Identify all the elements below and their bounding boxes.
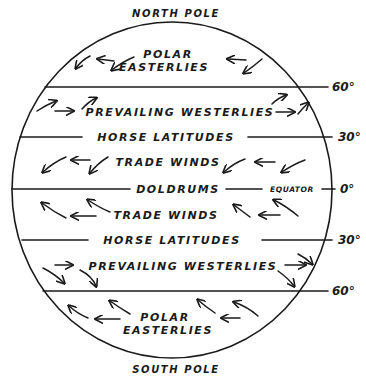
north-trade-winds-label: TRADE WINDS — [115, 156, 220, 169]
north-westerlies-label: PREVAILING WESTERLIES — [86, 106, 275, 119]
wind-belts-diagram: NORTH POLE SOUTH POLE 60° 30° 0° 30° 60°… — [0, 0, 366, 378]
north-polar-label-1: POLAR — [143, 48, 192, 61]
south-pole-label: SOUTH POLE — [132, 364, 220, 375]
north-polar-label-2: EASTERLIES — [119, 61, 209, 74]
south-trade-winds-label: TRADE WINDS — [113, 209, 218, 222]
degree-label-60s: 60° — [332, 284, 355, 298]
equator-label: EQUATOR — [270, 185, 314, 194]
degree-label-30n: 30° — [338, 130, 361, 144]
doldrums-label: DOLDRUMS — [136, 183, 220, 196]
degree-label-0: 0° — [340, 182, 354, 196]
south-westerlies-label: PREVAILING WESTERLIES — [89, 260, 278, 273]
south-polar-label-2: EASTERLIES — [123, 324, 213, 337]
south-horse-latitudes-label: HORSE LATITUDES — [103, 234, 240, 247]
north-pole-label: NORTH POLE — [132, 8, 220, 19]
south-polar-label-1: POLAR — [140, 311, 189, 324]
degree-label-30s: 30° — [338, 233, 361, 247]
north-horse-latitudes-label: HORSE LATITUDES — [97, 131, 234, 144]
degree-label-60n: 60° — [332, 80, 355, 94]
